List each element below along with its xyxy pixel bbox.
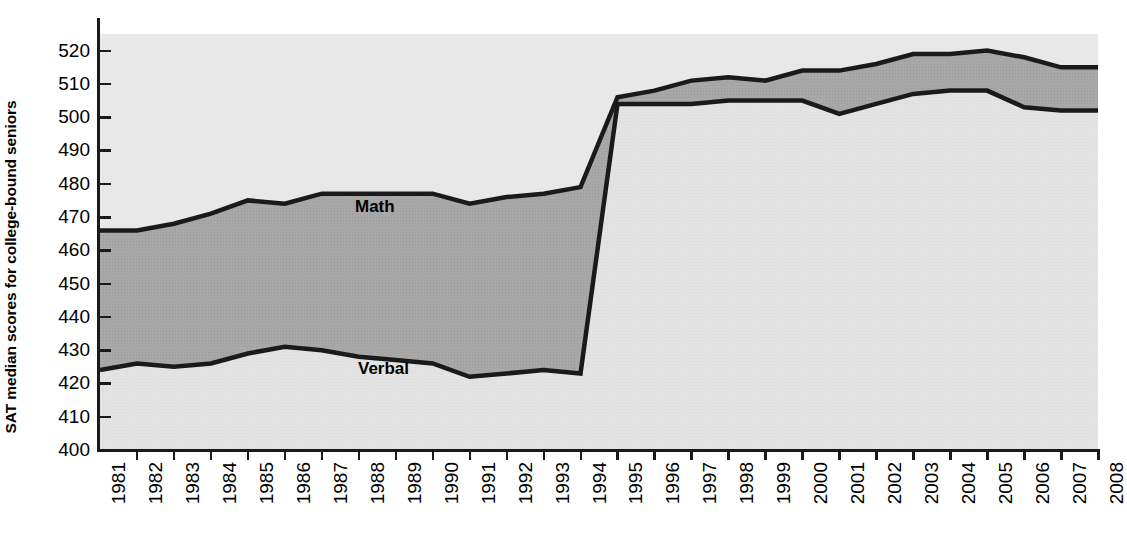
x-tick-label: 1984 xyxy=(220,462,240,534)
x-tick-label: 1982 xyxy=(146,462,166,534)
x-tick-mark xyxy=(1023,449,1026,460)
y-tick-mark xyxy=(100,116,111,119)
y-tick-label: 430 xyxy=(36,340,90,359)
x-tick-mark xyxy=(986,449,989,460)
x-tick-label: 1996 xyxy=(663,462,683,534)
x-tick-mark xyxy=(506,449,509,460)
y-tick-label: 420 xyxy=(36,373,90,392)
x-tick-mark xyxy=(764,449,767,460)
y-tick-label: 470 xyxy=(36,207,90,226)
x-tick-mark xyxy=(210,449,213,460)
x-tick-mark xyxy=(690,449,693,460)
plot-area: Math Verbal xyxy=(100,34,1098,450)
y-tick-mark xyxy=(100,50,111,53)
x-tick-label: 2005 xyxy=(996,462,1016,534)
y-tick-label: 520 xyxy=(36,41,90,60)
x-tick-mark xyxy=(580,449,583,460)
x-tick-label: 1987 xyxy=(331,462,351,534)
x-tick-label: 1994 xyxy=(590,462,610,534)
x-tick-mark xyxy=(432,449,435,460)
y-tick-mark xyxy=(100,249,111,252)
y-tick-mark xyxy=(100,382,111,385)
y-tick-label: 490 xyxy=(36,140,90,159)
x-tick-mark xyxy=(616,449,619,460)
x-tick-mark xyxy=(727,449,730,460)
x-tick-label: 1991 xyxy=(479,462,499,534)
x-tick-label: 1985 xyxy=(257,462,277,534)
x-axis-ticks xyxy=(0,449,1108,461)
y-tick-label: 410 xyxy=(36,407,90,426)
x-tick-label: 1986 xyxy=(294,462,314,534)
x-tick-mark xyxy=(1097,449,1100,460)
x-tick-label: 1997 xyxy=(700,462,720,534)
verbal-series-label: Verbal xyxy=(358,359,409,379)
y-tick-label: 500 xyxy=(36,107,90,126)
y-tick-mark xyxy=(100,216,111,219)
y-tick-mark xyxy=(100,283,111,286)
y-tick-mark xyxy=(100,349,111,352)
x-tick-label: 1989 xyxy=(405,462,425,534)
x-tick-mark xyxy=(469,449,472,460)
x-tick-mark xyxy=(284,449,287,460)
x-tick-mark xyxy=(247,449,250,460)
y-tick-mark xyxy=(100,183,111,186)
x-tick-label: 1993 xyxy=(553,462,573,534)
x-tick-mark xyxy=(136,449,139,460)
x-tick-label: 1995 xyxy=(626,462,646,534)
x-tick-mark xyxy=(838,449,841,460)
x-tick-label: 2008 xyxy=(1107,462,1127,534)
y-tick-label: 480 xyxy=(36,174,90,193)
y-tick-label: 460 xyxy=(36,240,90,259)
x-tick-label: 2001 xyxy=(848,462,868,534)
x-tick-label: 1998 xyxy=(737,462,757,534)
y-tick-mark xyxy=(100,316,111,319)
math-series-label: Math xyxy=(355,197,395,217)
x-tick-label: 1992 xyxy=(516,462,536,534)
x-tick-mark xyxy=(543,449,546,460)
x-tick-label: 2003 xyxy=(922,462,942,534)
y-tick-label: 510 xyxy=(36,74,90,93)
y-tick-mark xyxy=(100,149,111,152)
y-tick-label: 450 xyxy=(36,274,90,293)
x-tick-mark xyxy=(653,449,656,460)
x-axis-tick-labels: 1981198219831984198519861987198819891990… xyxy=(0,462,1108,534)
x-tick-label: 2002 xyxy=(885,462,905,534)
x-tick-label: 1988 xyxy=(368,462,388,534)
x-tick-label: 2007 xyxy=(1070,462,1090,534)
x-tick-label: 1983 xyxy=(183,462,203,534)
x-tick-label: 2004 xyxy=(959,462,979,534)
x-tick-label: 1990 xyxy=(442,462,462,534)
area-chart-svg xyxy=(100,34,1098,450)
x-tick-label: 1999 xyxy=(774,462,794,534)
y-tick-mark xyxy=(100,83,111,86)
x-tick-mark xyxy=(321,449,324,460)
x-tick-mark xyxy=(912,449,915,460)
x-tick-label: 2000 xyxy=(811,462,831,534)
x-tick-mark xyxy=(1060,449,1063,460)
x-tick-mark xyxy=(358,449,361,460)
x-tick-mark xyxy=(801,449,804,460)
x-tick-mark xyxy=(875,449,878,460)
x-tick-mark xyxy=(173,449,176,460)
y-tick-mark xyxy=(100,416,111,419)
x-tick-mark xyxy=(949,449,952,460)
x-tick-label: 1981 xyxy=(109,462,129,534)
x-tick-mark xyxy=(395,449,398,460)
x-tick-label: 2006 xyxy=(1033,462,1053,534)
y-tick-label: 440 xyxy=(36,307,90,326)
